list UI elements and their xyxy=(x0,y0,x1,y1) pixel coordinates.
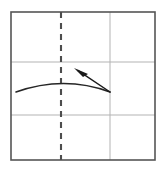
grid-diagram-svg xyxy=(0,0,163,171)
diagram-container xyxy=(0,0,163,171)
